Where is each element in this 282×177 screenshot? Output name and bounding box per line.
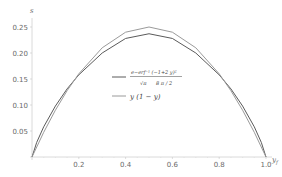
y-tick-label: 0.05 [12, 128, 28, 136]
y-tick-label: 0.15 [12, 76, 28, 84]
series-line-2 [32, 27, 266, 157]
line-chart: 0.20.40.60.81.0 0.050.100.150.200.25 s y… [0, 0, 282, 177]
legend-denominator-right: 8 π / 2 [156, 80, 172, 86]
x-tick-label: 1.0 [260, 161, 271, 169]
x-axis-label: yf [271, 156, 279, 166]
series-group [32, 27, 266, 157]
y-tick-label: 0.10 [12, 102, 28, 110]
y-ticks: 0.050.100.150.200.25 [12, 24, 32, 136]
y-tick-label: 0.25 [12, 24, 28, 32]
legend: e−erf⁻¹ (−1+2 y)² √π 8 π / 2 y (1 − y) [112, 69, 182, 101]
x-tick-label: 0.4 [120, 161, 132, 169]
x-tick-label: 0.6 [167, 161, 179, 169]
axes: 0.20.40.60.81.0 0.050.100.150.200.25 s y… [12, 7, 279, 169]
y-tick-label: 0.20 [12, 50, 28, 58]
x-tick-label: 0.2 [73, 161, 84, 169]
y-axis-label: s [30, 7, 34, 15]
legend-numerator-1: e−erf⁻¹ (−1+2 y)² [131, 69, 177, 76]
x-ticks: 0.20.40.60.81.0 [44, 157, 272, 169]
legend-label-2: y (1 − y) [129, 93, 161, 101]
x-tick-label: 0.8 [214, 161, 225, 169]
legend-denominator-left: √π [140, 80, 147, 86]
